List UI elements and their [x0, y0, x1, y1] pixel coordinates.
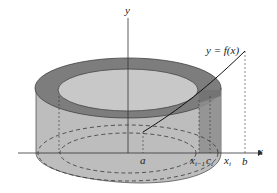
- tick-b: b: [242, 156, 248, 167]
- tick-c-i: ci: [206, 155, 213, 168]
- curve-label: y = f(x): [206, 45, 239, 56]
- tick-x-i: xi: [224, 155, 231, 168]
- tick-a: a: [140, 155, 146, 166]
- diagram-svg: [0, 0, 277, 193]
- tick-x-i-minus-1: xi−1: [190, 155, 205, 168]
- shell-method-diagram: y x y = f(x) a xi−1 ci xi b: [0, 0, 277, 193]
- y-axis-label: y: [125, 5, 130, 16]
- x-axis-label: x: [258, 146, 263, 157]
